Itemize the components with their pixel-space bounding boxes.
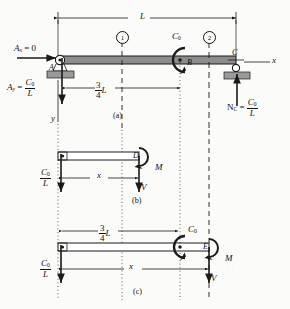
dimension-three-quarter-L-label-a: 34L xyxy=(95,81,107,100)
moment-label-b: M xyxy=(155,163,163,172)
cut-point-label-b: D xyxy=(133,152,139,160)
panel-caption-c: (c) xyxy=(133,288,142,296)
overall-dimension-label: L xyxy=(140,12,145,21)
section-marker-2: 2 xyxy=(203,31,216,44)
axis-x-label: x xyxy=(272,56,276,65)
dimension-x-label-c: x xyxy=(129,262,133,271)
overall-dimension-L xyxy=(58,12,236,24)
reaction-label-b: C0L xyxy=(40,168,51,188)
section-marker-1: 1 xyxy=(116,31,129,44)
axis-y-label: y xyxy=(51,114,55,123)
couple-label-a: C0 xyxy=(172,32,181,42)
moment-label-c: M xyxy=(225,254,233,263)
couple-label-c: C0 xyxy=(188,225,197,235)
shear-label-c: V xyxy=(211,274,217,283)
cut-point-label-c: E xyxy=(203,243,208,251)
beam-c xyxy=(58,243,209,251)
shear-label-b: V xyxy=(141,183,147,192)
figure-canvas: L 1 2 C0 Ax = 0 A B C x y Ay = C0L NC = … xyxy=(0,0,290,309)
reaction-nc-label: NC = C0L xyxy=(227,98,258,118)
reaction-label-c: C0L xyxy=(40,259,51,279)
point-b-label: B xyxy=(187,59,192,67)
panel-caption-b: (b) xyxy=(132,197,141,205)
panel-caption-a: (a) xyxy=(113,112,122,120)
point-c-label: C xyxy=(232,49,237,57)
support-a-label: A xyxy=(49,64,54,72)
beam-b xyxy=(58,152,139,160)
reaction-ax-label: Ax = 0 xyxy=(14,44,36,54)
dimension-x-label-b: x xyxy=(97,171,101,180)
reaction-ay-label: Ay = C0L xyxy=(7,78,35,98)
dimension-three-quarter-L-label-c: 34L xyxy=(99,224,111,243)
